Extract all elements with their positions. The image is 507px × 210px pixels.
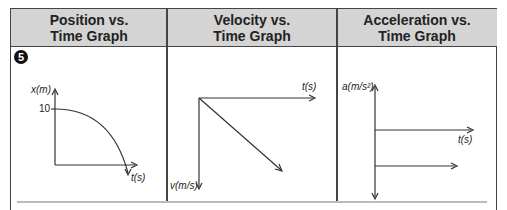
header-position: Position vs.Time Graph [11,9,167,47]
header-line: Position vs. [50,12,129,28]
velocity-graph-cell: t(s) v(m/s) [168,47,336,201]
svg-text:t(s): t(s) [458,134,472,145]
acceleration-graph-cell: a(m/s²) t(s) [338,47,498,201]
svg-text:v(m/s): v(m/s) [170,180,198,191]
position-graph: 5 x(m) 10 t(s) [11,47,166,201]
bottom-rule [17,201,487,203]
header-line: Time Graph [50,28,129,44]
svg-text:t(s): t(s) [302,81,316,92]
svg-text:5: 5 [18,51,24,63]
header-line: Acceleration vs. [363,12,470,28]
header-velocity: Velocity vs.Time Graph [167,9,337,47]
velocity-graph: t(s) v(m/s) [168,47,336,201]
position-curve [55,109,128,173]
kinematics-table: Position vs.Time Graph Velocity vs.Time … [10,8,497,210]
position-graph-cell: 5 x(m) 10 t(s) [11,47,166,201]
svg-text:t(s): t(s) [131,172,145,183]
velocity-line [199,98,281,170]
svg-text:a(m/s²): a(m/s²) [342,81,374,92]
header-acceleration: Acceleration vs.Time Graph [337,9,497,47]
header-line: Time Graph [363,28,470,44]
svg-text:x(m): x(m) [30,84,51,95]
acceleration-graph: a(m/s²) t(s) [338,47,498,201]
svg-text:10: 10 [39,103,51,114]
header-line: Velocity vs. [213,12,291,28]
header-line: Time Graph [213,28,291,44]
